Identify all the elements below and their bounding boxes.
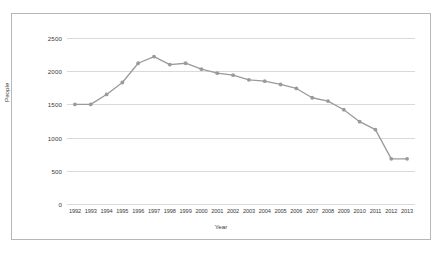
x-axis-tick-label: 1999 <box>180 208 192 214</box>
y-axis-tick-label: 1000 <box>48 134 62 141</box>
x-axis-tick-label: 1993 <box>85 208 97 214</box>
x-axis-tick-label: 2001 <box>211 208 223 214</box>
chart-frame: People 05001000150020002500 199219931994… <box>11 13 431 240</box>
x-axis-tick-labels: 1992199319941995199619971998199920002001… <box>67 208 415 220</box>
data-point-marker <box>215 71 219 75</box>
data-point-marker <box>136 61 140 65</box>
x-axis-tick-label: 2003 <box>243 208 255 214</box>
data-point-marker <box>405 157 409 161</box>
y-axis-tick-labels: 05001000150020002500 <box>26 38 62 204</box>
data-point-marker <box>89 103 93 107</box>
data-point-marker <box>389 157 393 161</box>
data-point-marker <box>152 55 156 59</box>
data-point-marker <box>231 73 235 77</box>
x-axis-tick-label: 1996 <box>132 208 144 214</box>
data-point-marker <box>105 93 109 97</box>
x-axis-tick-label: 2002 <box>227 208 239 214</box>
y-axis-tick-label: 2000 <box>48 68 62 75</box>
gridline <box>67 204 415 205</box>
x-axis-tick-label: 2000 <box>195 208 207 214</box>
x-axis-tick-label: 2004 <box>259 208 271 214</box>
x-axis-tick-label: 2012 <box>385 208 397 214</box>
y-axis-tick-label: 500 <box>51 167 62 174</box>
x-axis-title: Year <box>12 223 430 230</box>
data-point-marker <box>168 63 172 67</box>
x-axis-tick-label: 1994 <box>101 208 113 214</box>
data-point-marker <box>120 81 124 85</box>
x-axis-tick-label: 2005 <box>275 208 287 214</box>
data-point-marker <box>200 67 204 71</box>
data-point-marker <box>279 83 283 87</box>
x-axis-tick-label: 1997 <box>148 208 160 214</box>
x-axis-tick-label: 2013 <box>401 208 413 214</box>
x-axis-tick-label: 2007 <box>306 208 318 214</box>
y-axis-title: People <box>3 83 10 102</box>
data-point-marker <box>310 96 314 100</box>
data-point-marker <box>184 61 188 65</box>
y-axis-tick-label: 0 <box>58 201 62 208</box>
data-point-marker <box>73 103 77 107</box>
x-axis-tick-label: 2008 <box>322 208 334 214</box>
y-axis-tick-label: 1500 <box>48 101 62 108</box>
x-axis-tick-label: 1998 <box>164 208 176 214</box>
x-axis-tick-label: 2006 <box>290 208 302 214</box>
x-axis-tick-label: 1992 <box>69 208 81 214</box>
line-series-people <box>67 38 415 204</box>
data-point-marker <box>342 108 346 112</box>
x-axis-tick-label: 2011 <box>370 208 382 214</box>
series-line <box>75 57 407 159</box>
x-axis-tick-label: 1995 <box>116 208 128 214</box>
y-axis-tick-label: 2500 <box>48 35 62 42</box>
data-point-marker <box>263 79 267 83</box>
data-point-marker <box>374 128 378 132</box>
plot-area <box>67 38 415 204</box>
x-axis-tick-label: 2010 <box>354 208 366 214</box>
data-point-marker <box>326 99 330 103</box>
data-point-marker <box>247 78 251 82</box>
data-point-marker <box>294 87 298 91</box>
x-axis-tick-label: 2009 <box>338 208 350 214</box>
data-point-marker <box>358 120 362 124</box>
